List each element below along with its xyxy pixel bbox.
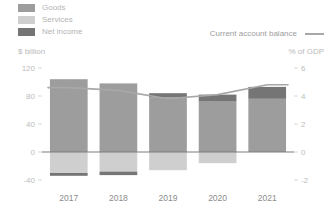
left-tick-label: -40 bbox=[23, 176, 35, 185]
plot-svg: 12080400-40 6420-2 bbox=[0, 60, 334, 190]
legend-swatch-net-income bbox=[18, 28, 35, 36]
bar-series-group bbox=[50, 79, 286, 176]
left-tick-label: 80 bbox=[26, 92, 35, 101]
bar-segment bbox=[50, 173, 88, 176]
legend-label-net-income: Net income bbox=[42, 27, 82, 36]
bar-segment bbox=[50, 152, 88, 173]
bar-segment bbox=[199, 152, 237, 163]
right-axis-unit-label: % of GDP bbox=[288, 47, 324, 56]
bar-segment bbox=[248, 87, 286, 99]
right-tick-label: 2 bbox=[301, 120, 306, 129]
bar-segment bbox=[248, 99, 286, 152]
legend-item-services: Services bbox=[18, 15, 82, 24]
right-tick-label: 6 bbox=[301, 64, 306, 73]
x-tick-label: 2019 bbox=[159, 193, 178, 203]
right-tick-label: -2 bbox=[301, 176, 309, 185]
legend-label-current-account-balance: Current account balance bbox=[210, 29, 297, 38]
left-tick-label: 0 bbox=[31, 148, 36, 157]
x-axis-svg: 20172018201920202021 bbox=[0, 190, 334, 210]
legend-current-account-balance: Current account balance bbox=[210, 29, 324, 38]
bar-segment bbox=[199, 102, 237, 152]
x-tick-label: 2018 bbox=[109, 193, 128, 203]
left-axis-ticks: 12080400-40 bbox=[22, 64, 42, 185]
legend-item-goods: Goods bbox=[18, 3, 82, 12]
x-tick-label: 2020 bbox=[208, 193, 227, 203]
chart-figure: Goods Services Net income Current accoun… bbox=[0, 0, 334, 213]
legend-label-goods: Goods bbox=[42, 3, 66, 12]
bar-segment bbox=[149, 97, 187, 152]
legend-categories: Goods Services Net income bbox=[18, 3, 82, 36]
legend-item-net-income: Net income bbox=[18, 27, 82, 36]
right-axis-ticks: 6420-2 bbox=[294, 64, 309, 185]
right-tick-label: 0 bbox=[301, 148, 306, 157]
bar-segment bbox=[100, 83, 138, 152]
bar-segment bbox=[100, 152, 138, 172]
legend-swatch-current-account-balance bbox=[305, 33, 324, 35]
legend-swatch-goods bbox=[18, 4, 35, 12]
x-tick-label: 2021 bbox=[258, 193, 277, 203]
legend-swatch-services bbox=[18, 16, 35, 24]
legend-label-services: Services bbox=[42, 15, 73, 24]
x-axis-labels: 20172018201920202021 bbox=[0, 190, 334, 210]
left-tick-label: 120 bbox=[22, 64, 36, 73]
right-tick-label: 4 bbox=[301, 92, 306, 101]
x-tick-label: 2017 bbox=[59, 193, 78, 203]
left-tick-label: 40 bbox=[26, 120, 35, 129]
plot-area: 12080400-40 6420-2 bbox=[0, 60, 334, 190]
bar-segment bbox=[50, 79, 88, 152]
left-axis-unit-label: $ billion bbox=[18, 47, 45, 56]
bar-segment bbox=[100, 172, 138, 176]
bar-segment bbox=[149, 152, 187, 170]
